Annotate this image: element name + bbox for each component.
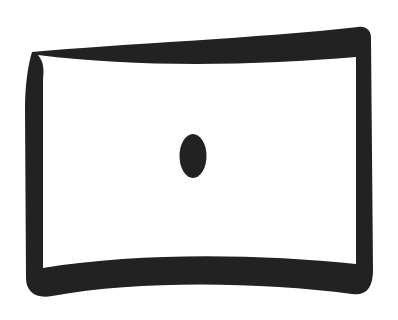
- center-dot: [180, 134, 207, 178]
- panorama-screen-icon: [0, 0, 398, 320]
